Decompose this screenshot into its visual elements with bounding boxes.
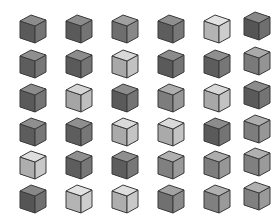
cube [108, 48, 142, 82]
cube [200, 116, 234, 150]
cube [108, 183, 142, 217]
cube [240, 10, 274, 44]
cube [240, 79, 274, 113]
cube [16, 116, 50, 150]
cube [62, 116, 96, 150]
cube [200, 82, 234, 116]
cube [154, 48, 188, 82]
cube [62, 13, 96, 47]
cube [108, 149, 142, 183]
cube [240, 146, 274, 180]
cube [240, 45, 274, 79]
cube [240, 113, 274, 147]
cube [200, 149, 234, 183]
cube [200, 13, 234, 47]
cube [108, 82, 142, 116]
cube [154, 149, 188, 183]
cube [62, 183, 96, 217]
cube [154, 82, 188, 116]
cube [16, 149, 50, 183]
cube [62, 48, 96, 82]
cube [108, 116, 142, 150]
cube [200, 183, 234, 217]
cube [16, 13, 50, 47]
cube [200, 48, 234, 82]
cube [154, 183, 188, 217]
cube [154, 13, 188, 47]
cube [16, 82, 50, 116]
cube [62, 149, 96, 183]
cube [16, 48, 50, 82]
cube [240, 180, 274, 214]
cube [16, 183, 50, 217]
cube [62, 82, 96, 116]
cube [108, 13, 142, 47]
cube [154, 116, 188, 150]
cube-grid [0, 0, 280, 222]
